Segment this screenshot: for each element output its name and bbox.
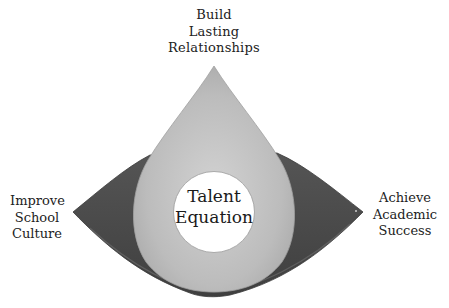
- center-line-2: Equation: [174, 207, 254, 228]
- node-right-line-3: Success: [370, 223, 440, 240]
- node-label-left: Improve School Culture: [10, 193, 64, 243]
- node-left-line-3: Culture: [10, 226, 64, 243]
- node-top-line-3: Relationships: [164, 40, 264, 57]
- center-line-1: Talent: [174, 186, 254, 207]
- node-right-line-1: Achieve: [370, 190, 440, 207]
- node-top-line-2: Lasting: [164, 24, 264, 41]
- right-point-marker: [355, 210, 357, 212]
- node-left-line-2: School: [10, 210, 64, 227]
- node-right-line-2: Academic: [370, 207, 440, 224]
- node-left-line-1: Improve: [10, 193, 64, 210]
- center-label: Talent Equation: [174, 186, 254, 228]
- node-top-line-1: Build: [164, 7, 264, 24]
- node-label-top: Build Lasting Relationships: [164, 7, 264, 57]
- node-label-right: Achieve Academic Success: [370, 190, 440, 240]
